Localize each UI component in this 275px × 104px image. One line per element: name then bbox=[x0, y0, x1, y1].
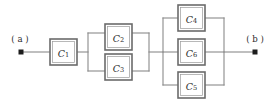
terminal-dot-b bbox=[253, 50, 258, 55]
capacitor-circuit-diagram: C1 C2 C3 C4 bbox=[0, 0, 275, 104]
component-c3: C3 bbox=[105, 54, 132, 80]
component-c2: C2 bbox=[105, 24, 132, 50]
component-c5: C5 bbox=[178, 72, 205, 98]
terminal-dot-a bbox=[19, 50, 24, 55]
component-c1: C1 bbox=[50, 39, 77, 65]
component-c4: C4 bbox=[178, 5, 205, 31]
terminal-b: ( b ) bbox=[246, 34, 264, 55]
circuit-schematic: C1 C2 C3 C4 bbox=[0, 0, 275, 104]
terminal-label-b: ( b ) bbox=[246, 34, 264, 44]
terminal-label-a: ( a ) bbox=[11, 34, 28, 44]
component-c6: C6 bbox=[178, 39, 205, 65]
terminal-a: ( a ) bbox=[11, 34, 28, 55]
